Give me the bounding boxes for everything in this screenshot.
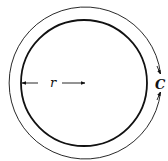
circumference-label: C bbox=[155, 77, 166, 92]
circle-diagram: r C bbox=[0, 0, 168, 161]
radius-label: r bbox=[50, 75, 57, 90]
